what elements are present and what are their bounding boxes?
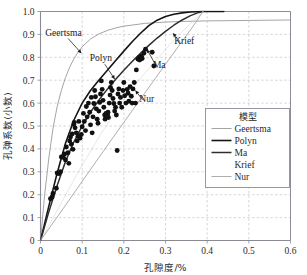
annotation-label-ma: Ma [153, 60, 166, 70]
legend-label-krief: Krief [235, 160, 256, 170]
scatter-point [93, 94, 98, 99]
scatter-point [70, 132, 75, 137]
annotation-arrowhead-polyn [111, 75, 115, 79]
x-tick-label: 0.3 [160, 246, 172, 256]
annotation-label-nur: Nur [139, 94, 155, 104]
scatter-point [66, 150, 71, 155]
scatter-point [86, 101, 91, 106]
scatter-point [114, 113, 119, 118]
legend-title: 模型 [239, 112, 257, 122]
scatter-point [54, 186, 59, 191]
scatter-point [58, 169, 63, 174]
scatter-point [101, 98, 106, 103]
scatter-point [106, 115, 111, 120]
scatter-point [95, 117, 100, 122]
scatter-point [101, 105, 106, 110]
legend-label-nur: Nur [235, 172, 251, 182]
scatter-point [89, 95, 94, 100]
scatter-point [107, 101, 112, 106]
scatter-point [85, 114, 90, 119]
chart-canvas: 00.10.20.30.40.50.600.10.20.30.40.50.60.… [0, 0, 307, 275]
scatter-point [69, 142, 74, 147]
legend-label-polyn: Polyn [235, 136, 257, 146]
scatter-point [72, 120, 77, 125]
y-tick-label: 0.5 [23, 121, 35, 131]
scatter-point [96, 109, 101, 114]
annotation-label-krief: Krief [174, 36, 195, 46]
x-axis-title: 孔隙度/% [144, 262, 186, 273]
scatter-point [121, 88, 126, 93]
scatter-point [131, 86, 136, 91]
scatter-point [82, 119, 87, 124]
scatter-point [133, 101, 138, 106]
annotation-label-polyn: Polyn [90, 53, 112, 63]
scatter-point [119, 105, 124, 110]
chart-figure: 00.10.20.30.40.50.600.10.20.30.40.50.60.… [0, 0, 307, 275]
scatter-point [96, 121, 101, 126]
scatter-point [111, 96, 116, 101]
y-tick-label: 0.4 [23, 144, 35, 154]
scatter-point [110, 88, 115, 93]
scatter-point [66, 161, 71, 166]
y-tick-label: 0.7 [23, 76, 35, 86]
y-tick-label: 0.9 [23, 30, 35, 40]
y-tick-label: 0 [30, 236, 35, 246]
y-tick-label: 0.6 [23, 99, 35, 109]
scatter-point [51, 191, 56, 196]
x-tick-label: 0.1 [76, 246, 88, 256]
scatter-point [83, 128, 88, 133]
x-tick-label: 0.2 [118, 246, 130, 256]
y-tick-label: 1.0 [23, 7, 35, 17]
y-tick-label: 0.8 [23, 53, 35, 63]
scatter-point [64, 145, 69, 150]
curve-polyn [41, 12, 224, 241]
scatter-point [91, 114, 96, 119]
scatter-point [116, 86, 121, 91]
scatter-point [98, 91, 103, 96]
scatter-point [109, 80, 114, 85]
scatter-point [106, 110, 111, 115]
y-tick-label: 0.3 [23, 167, 35, 177]
scatter-point [132, 80, 137, 85]
annotation-label-geertsma: Geertsma [45, 28, 82, 38]
scatter-point [91, 101, 96, 106]
scatter-point [80, 124, 85, 129]
y-tick-label: 0.1 [23, 213, 35, 223]
scatter-point [121, 80, 126, 85]
x-tick-label: 0.6 [285, 246, 297, 256]
scatter-point [92, 88, 97, 93]
scatter-point [90, 130, 95, 135]
scatter-point [150, 50, 155, 55]
scatter-point [73, 125, 78, 130]
scatter-point [81, 111, 86, 116]
scatter-point [76, 119, 81, 124]
legend-label-ma: Ma [235, 148, 248, 158]
y-axis-title: 孔弹系数(小数) [2, 92, 13, 159]
scatter-point [118, 95, 123, 100]
scatter-point [79, 132, 84, 137]
scatter-point [99, 78, 104, 83]
scatter-point [115, 148, 120, 153]
y-tick-label: 0.2 [23, 190, 35, 200]
scatter-point [140, 56, 145, 61]
scatter-point [100, 87, 105, 92]
x-tick-label: 0 [38, 246, 43, 256]
scatter-point [88, 122, 93, 127]
scatter-point [129, 94, 134, 99]
x-tick-label: 0.5 [243, 246, 255, 256]
scatter-series [48, 47, 156, 201]
scatter-point [87, 110, 92, 115]
x-tick-label: 0.4 [201, 246, 213, 256]
legend-label-geertsma: Geertsma [235, 124, 272, 134]
scatter-point [113, 105, 118, 110]
scatter-point [134, 67, 139, 72]
scatter-point [71, 147, 76, 152]
